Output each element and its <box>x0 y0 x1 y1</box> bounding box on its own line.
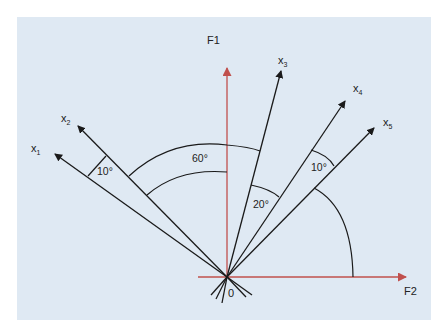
arc-x5-f2 <box>314 188 353 277</box>
arc-x2-f1 <box>147 171 227 195</box>
label-x3: x3 <box>278 54 288 68</box>
label-x2: x2 <box>61 112 71 126</box>
angle-label-x1-x2: 10° <box>97 165 113 177</box>
label-x5: x5 <box>383 116 393 130</box>
vector-x4 <box>227 101 345 277</box>
origin-label: 0 <box>228 287 234 299</box>
vector-x2 <box>78 126 227 277</box>
f1-label: F1 <box>207 34 220 46</box>
angle-label-x4-x5: 10° <box>311 161 327 173</box>
angle-label-x2-x3: 60° <box>192 152 208 164</box>
f2-label: F2 <box>404 285 417 297</box>
label-x4: x4 <box>353 82 363 96</box>
factor-vector-diagram: F1 F2 0 x1 x2 x3 x4 x5 10° 60° 20° 10° <box>0 0 447 334</box>
arc-x3-x4 <box>251 185 279 197</box>
vector-x3 <box>227 71 281 277</box>
label-x1: x1 <box>31 142 41 156</box>
angle-label-x3-x4: 20° <box>253 198 269 210</box>
